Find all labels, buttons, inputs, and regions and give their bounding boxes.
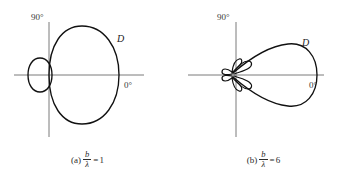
- curve-label-d-a: D: [117, 33, 124, 44]
- caption-a: (a) b λ = 1: [0, 150, 175, 169]
- caption-b-denominator: λ: [260, 160, 268, 169]
- caption-a-value: 1: [99, 155, 104, 165]
- side-lobe-lower-2-b: [232, 77, 242, 91]
- caption-a-fraction: b λ: [83, 150, 91, 169]
- axis-label-0deg-a: 0°: [124, 80, 132, 90]
- side-lobe-upper-2-b: [232, 59, 242, 73]
- caption-b-equals: =: [270, 155, 275, 165]
- caption-b: (b) b λ = 6: [176, 150, 351, 169]
- axis-label-0deg-b: 0°: [309, 80, 317, 90]
- polar-plot-a-svg: [0, 0, 175, 150]
- curve-label-d-b: D: [302, 37, 309, 48]
- axis-label-90deg-b: 90°: [217, 12, 230, 22]
- polar-plot-b-svg: [176, 0, 351, 150]
- caption-b-lead: (b): [247, 155, 258, 165]
- caption-a-equals: =: [93, 155, 98, 165]
- caption-a-lead: (a): [71, 155, 81, 165]
- caption-b-fraction: b λ: [259, 150, 267, 169]
- back-lobe-upper-b: [222, 69, 232, 75]
- back-lobe-lower-b: [222, 75, 232, 81]
- caption-b-numerator: b: [259, 150, 267, 160]
- caption-a-denominator: λ: [83, 160, 91, 169]
- axis-label-90deg-a: 90°: [31, 12, 44, 22]
- caption-b-value: 6: [276, 155, 281, 165]
- polar-plot-panel-b: 90° 0° D (b) b λ = 6: [176, 0, 351, 187]
- caption-a-numerator: b: [83, 150, 91, 160]
- figure-container: 90° 0° D (a) b λ = 1: [0, 0, 351, 187]
- polar-plot-panel-a: 90° 0° D (a) b λ = 1: [0, 0, 175, 187]
